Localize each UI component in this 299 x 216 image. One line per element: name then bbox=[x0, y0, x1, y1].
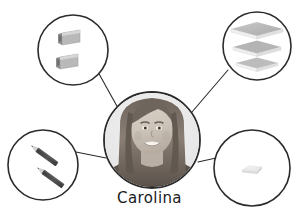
center-node[interactable] bbox=[104, 92, 200, 188]
diagram-canvas: Carolina bbox=[0, 0, 299, 216]
connector-top-left bbox=[98, 72, 118, 108]
node-top-right[interactable] bbox=[223, 12, 291, 80]
connector-top-right bbox=[192, 70, 228, 112]
concept-map-svg bbox=[0, 0, 299, 216]
node-top-left[interactable] bbox=[38, 15, 108, 85]
connector-bottom-left bbox=[76, 152, 106, 158]
stacked-notebooks-icon bbox=[231, 22, 283, 72]
node-top-left-circle[interactable] bbox=[38, 15, 108, 85]
connector-bottom-right bbox=[198, 158, 216, 162]
center-node-name-label: Carolina bbox=[0, 189, 299, 207]
